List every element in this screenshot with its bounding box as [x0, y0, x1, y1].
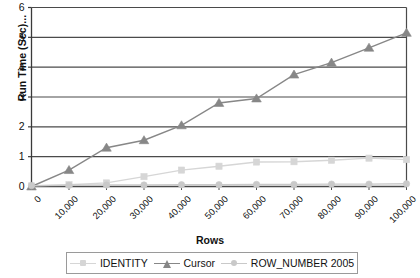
legend-item-row-number-2005: ROW_NUMBER 2005 [221, 257, 354, 269]
line-chart: Run Time (Sec)... Rows 0123456 010,00020… [0, 0, 420, 278]
legend-item-identity: IDENTITY [70, 257, 148, 269]
plot-area [0, 0, 420, 278]
legend-swatch-row-number-2005 [221, 258, 247, 268]
legend-label-row-number-2005: ROW_NUMBER 2005 [251, 257, 354, 269]
legend-label-cursor: Cursor [184, 257, 216, 269]
chart-legend: IDENTITY Cursor ROW_NUMBER 2005 [66, 252, 358, 274]
legend-item-cursor: Cursor [154, 257, 216, 269]
legend-label-identity: IDENTITY [100, 257, 148, 269]
legend-swatch-cursor [154, 258, 180, 268]
legend-swatch-identity [70, 258, 96, 268]
